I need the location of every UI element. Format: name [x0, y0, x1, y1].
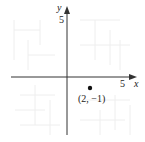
y-axis [64, 6, 70, 135]
x-axis [11, 74, 137, 80]
x-axis-label: x [133, 78, 139, 89]
data-point [88, 86, 92, 90]
y-axis-label: y [56, 2, 62, 13]
y-axis-arrow-icon [64, 6, 70, 14]
x-tick-label-5: 5 [120, 78, 125, 89]
data-point-label: (2, −1) [78, 93, 105, 105]
coordinate-plane: 5 5 y x (2, −1) [0, 0, 145, 142]
y-tick-label-5: 5 [59, 14, 64, 25]
